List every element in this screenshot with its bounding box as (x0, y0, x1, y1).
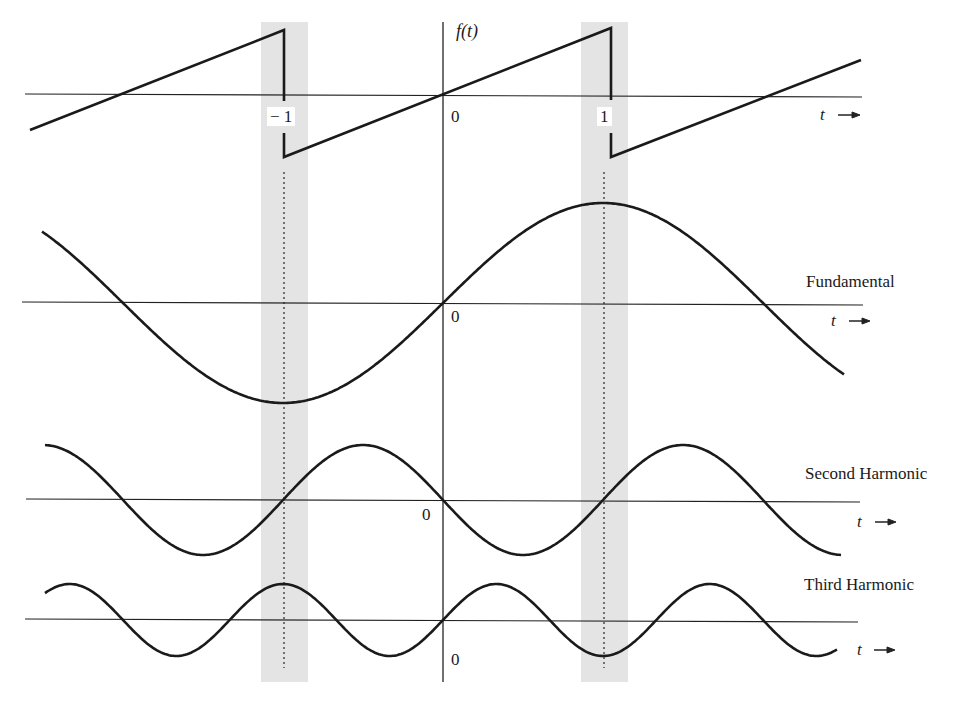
tick-label-zero-top: 0 (451, 108, 460, 125)
function-axis-label: f(t) (456, 22, 478, 40)
zero-label-fundamental: 0 (451, 308, 460, 325)
zero-label-second: 0 (422, 506, 431, 523)
third-harmonic-label: Third Harmonic (804, 576, 914, 593)
sawtooth-curve-mid (284, 28, 611, 157)
second-harmonic-label: Second Harmonic (805, 465, 927, 482)
t-arrow-icon (838, 112, 896, 653)
sawtooth-curve (30, 30, 284, 130)
time-label-fundamental: t (831, 312, 836, 329)
time-label-third: t (857, 641, 862, 658)
time-label-sawtooth: t (820, 106, 825, 123)
fundamental-label: Fundamental (806, 273, 895, 290)
tick-label-neg-one: − 1 (267, 107, 295, 126)
time-label-second: t (857, 513, 862, 530)
zero-label-third: 0 (451, 651, 460, 668)
tick-label-one: 1 (597, 107, 612, 126)
